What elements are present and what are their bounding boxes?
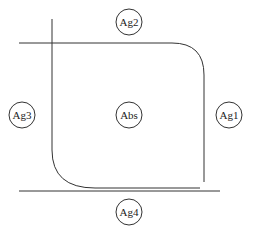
- node-abs: Abs: [116, 102, 142, 128]
- abs-label: Abs: [120, 109, 138, 121]
- ag4-label: Ag4: [120, 206, 139, 218]
- node-ag4: Ag4: [116, 199, 142, 225]
- right-curve-line: [172, 43, 204, 182]
- node-ag2: Ag2: [116, 9, 142, 35]
- ag2-label: Ag2: [120, 16, 139, 28]
- ag1-label: Ag1: [220, 109, 239, 121]
- node-ag1: Ag1: [216, 102, 242, 128]
- ag3-label: Ag3: [13, 109, 32, 121]
- agent-diagram: Ag2 Ag3 Abs Ag1 Ag4: [0, 0, 254, 237]
- bottom-curve-line: [52, 150, 200, 188]
- node-ag3: Ag3: [9, 102, 35, 128]
